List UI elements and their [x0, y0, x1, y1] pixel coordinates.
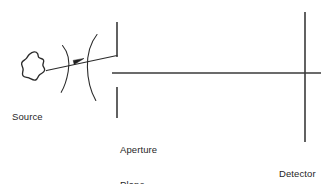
aperture-plane-label: Aperture Plane	[120, 121, 157, 184]
optics-diagram: Source Aperture Plane Detector Plane	[0, 0, 335, 184]
source-label-text: Source	[12, 111, 43, 123]
wavefront-arc-near-icon	[61, 46, 69, 93]
aperture-plane-label-line1: Aperture	[120, 144, 157, 156]
aperture-plane-label-line2: Plane	[120, 179, 157, 185]
detector-plane-label-line1: Detector	[279, 168, 316, 180]
source-blob-icon	[22, 52, 45, 80]
propagation-ray	[47, 56, 118, 71]
detector-plane-label: Detector Plane	[279, 145, 316, 184]
source-label: Source	[12, 88, 43, 146]
wavefront-arc-far-icon	[87, 35, 97, 101]
